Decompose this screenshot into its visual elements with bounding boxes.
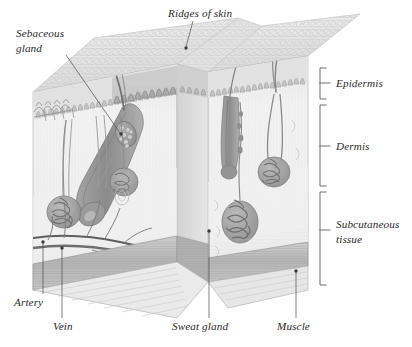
skin-cross-section-figure: Ridges of skin Sebaceous gland Artery Ve… <box>0 0 412 347</box>
skin-block-illustration: Ridges of skin Sebaceous gland Artery Ve… <box>13 2 400 332</box>
label-sebaceous-gland-line1: Sebaceous <box>16 27 65 39</box>
label-subcutaneous-tissue-line1: Subcutaneous <box>336 218 400 230</box>
label-muscle: Muscle <box>276 320 310 332</box>
skin-diagram-svg: Ridges of skin Sebaceous gland Artery Ve… <box>0 0 412 347</box>
label-subcutaneous-tissue-line2: tissue <box>336 233 362 245</box>
leader-dot-sweat <box>207 229 210 232</box>
bracket-epidermis <box>320 68 330 99</box>
hair-follicle-center <box>221 96 239 179</box>
label-artery: Artery <box>13 296 43 308</box>
leader-dot-ridges <box>184 46 187 49</box>
label-dermis: Dermis <box>335 140 370 152</box>
leader-dot-sebaceous <box>119 132 122 135</box>
bracket-dermis <box>320 105 330 186</box>
label-sebaceous-gland-line2: gland <box>16 42 42 54</box>
label-epidermis: Epidermis <box>335 77 383 89</box>
label-vein: Vein <box>53 320 73 332</box>
label-ridges-of-skin: Ridges of skin <box>167 7 232 19</box>
leader-dot-muscle <box>294 269 297 272</box>
label-sweat-gland: Sweat gland <box>172 320 228 332</box>
leader-dot-artery <box>41 240 44 243</box>
sweat-gland-coil-right <box>258 157 290 187</box>
leader-dot-vein <box>60 246 63 249</box>
right-block-side-face <box>303 56 308 272</box>
layer-brackets <box>320 68 330 285</box>
bracket-subcutaneous-tissue <box>320 192 330 285</box>
